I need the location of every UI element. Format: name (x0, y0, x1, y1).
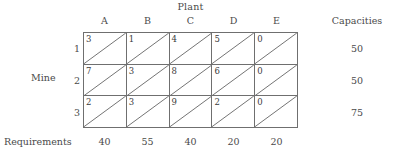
capacities-header: Capacities (318, 15, 396, 26)
cost-value: 8 (172, 66, 177, 76)
requirement-col-c: 40 (169, 136, 212, 147)
cost-value: 0 (257, 66, 262, 76)
cost-grid: 3 1 4 5 0 7 (83, 32, 298, 128)
cell-2-a[interactable]: 7 (84, 65, 127, 96)
cost-value: 0 (257, 34, 262, 44)
table-row: 7 3 8 6 0 (84, 65, 297, 97)
cell-3-e[interactable]: 0 (255, 96, 297, 127)
row-header-2: 2 (68, 64, 80, 96)
cost-value: 4 (172, 34, 177, 44)
cell-3-b[interactable]: 3 (127, 96, 170, 127)
row-header-column: 1 2 3 (68, 32, 80, 128)
cost-value: 0 (257, 97, 262, 107)
cell-3-a[interactable]: 2 (84, 96, 127, 127)
cell-1-b[interactable]: 1 (127, 33, 170, 64)
cell-2-d[interactable]: 6 (212, 65, 255, 96)
requirement-col-d: 20 (212, 136, 255, 147)
cell-2-c[interactable]: 8 (170, 65, 213, 96)
requirement-col-e: 20 (255, 136, 298, 147)
plant-group-label: Plant (83, 1, 298, 12)
requirements-row: 40 55 40 20 20 (83, 136, 298, 147)
cost-value: 3 (86, 34, 91, 44)
cost-value: 1 (129, 34, 134, 44)
capacity-row-3: 75 (318, 96, 396, 128)
column-header-row: A B C D E (83, 15, 298, 26)
table-row: 3 1 4 5 0 (84, 33, 297, 65)
cell-2-b[interactable]: 3 (127, 65, 170, 96)
cost-value: 5 (214, 34, 219, 44)
row-header-3: 3 (68, 96, 80, 128)
capacity-row-1: 50 (318, 32, 396, 64)
cell-1-d[interactable]: 5 (212, 33, 255, 64)
column-header-a: A (83, 15, 126, 26)
transportation-tableau: Plant A B C D E Mine 1 2 3 3 1 4 (0, 0, 401, 159)
cost-value: 9 (172, 97, 177, 107)
capacity-row-2: 50 (318, 64, 396, 96)
table-row: 2 3 9 2 0 (84, 96, 297, 127)
row-header-1: 1 (68, 32, 80, 64)
cell-1-a[interactable]: 3 (84, 33, 127, 64)
cost-value: 7 (86, 66, 91, 76)
cost-value: 2 (214, 97, 219, 107)
cell-1-e[interactable]: 0 (255, 33, 297, 64)
cost-value: 2 (86, 97, 91, 107)
cost-value: 3 (129, 66, 134, 76)
cell-1-c[interactable]: 4 (170, 33, 213, 64)
mine-group-label: Mine (31, 72, 56, 83)
column-header-b: B (126, 15, 169, 26)
capacities-column: 50 50 75 (318, 32, 396, 128)
requirements-header: Requirements (4, 136, 72, 147)
column-header-c: C (169, 15, 212, 26)
cell-3-d[interactable]: 2 (212, 96, 255, 127)
cost-value: 6 (214, 66, 219, 76)
cell-3-c[interactable]: 9 (170, 96, 213, 127)
requirement-col-b: 55 (126, 136, 169, 147)
column-header-d: D (212, 15, 255, 26)
cell-2-e[interactable]: 0 (255, 65, 297, 96)
column-header-e: E (255, 15, 298, 26)
cost-value: 3 (129, 97, 134, 107)
requirement-col-a: 40 (83, 136, 126, 147)
